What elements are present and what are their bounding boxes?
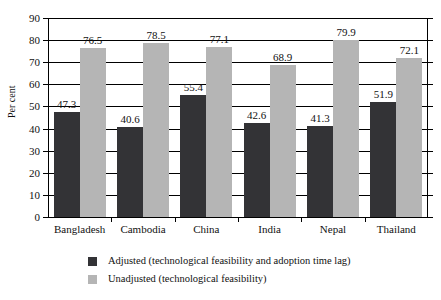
bar-adjusted[interactable]: 40.6 [117, 127, 143, 217]
bar-adjusted[interactable]: 55.4 [180, 95, 206, 217]
y-axis-tick-right [428, 40, 433, 41]
legend-item[interactable]: Adjusted (technological feasibility and … [88, 252, 351, 270]
y-axis-title: Per cent [7, 86, 17, 119]
y-axis-tick-right [428, 151, 433, 152]
bar-value-label: 78.5 [146, 30, 165, 41]
y-axis-tick-right [428, 129, 433, 130]
bar-unadjusted[interactable]: 79.9 [333, 40, 359, 217]
bar-group: 41.379.9 [307, 18, 359, 217]
bar-unadjusted[interactable]: 68.9 [270, 65, 296, 217]
x-axis-category-label: Nepal [320, 224, 346, 235]
y-axis-tick-label: 0 [35, 212, 41, 223]
bar-value-label: 47.3 [57, 99, 76, 110]
bar-value-label: 40.6 [120, 114, 139, 125]
x-axis-category-label: China [193, 224, 219, 235]
y-axis-tick-right [428, 195, 433, 196]
bar-value-label: 79.9 [336, 27, 355, 38]
bar-group: 51.972.1 [370, 18, 422, 217]
x-axis-tick [238, 218, 239, 222]
y-axis-tick-label: 40 [29, 123, 40, 134]
bar-unadjusted[interactable]: 78.5 [143, 43, 169, 217]
bar-chart: Per cent 9080706050403020100 47.376.540.… [0, 0, 441, 300]
bar-unadjusted[interactable]: 76.5 [80, 48, 106, 217]
bar-adjusted[interactable]: 42.6 [244, 123, 270, 217]
legend-label: Unadjusted (technological feasibility) [108, 274, 267, 285]
y-axis-tick-label: 60 [29, 79, 40, 90]
legend-item[interactable]: Unadjusted (technological feasibility) [88, 270, 351, 288]
x-axis-tick [365, 218, 366, 222]
bar-value-label: 51.9 [374, 89, 393, 100]
x-axis-category-label: Bangladesh [54, 224, 105, 235]
legend-label: Adjusted (technological feasibility and … [108, 256, 351, 267]
y-axis-tick-right [428, 217, 433, 218]
y-axis-tick-label: 80 [29, 35, 40, 46]
y-axis-tick-right [428, 62, 433, 63]
bar-value-label: 76.5 [83, 35, 102, 46]
y-axis-tick-right [428, 18, 433, 19]
bar-value-label: 41.3 [310, 113, 329, 124]
legend-swatch [88, 257, 97, 266]
legend-swatch [88, 275, 97, 284]
y-axis-tick-label: 70 [29, 57, 40, 68]
y-axis-tick-label: 90 [29, 13, 40, 24]
bar-value-label: 42.6 [247, 110, 266, 121]
bar-unadjusted[interactable]: 77.1 [206, 47, 232, 217]
bar-value-label: 55.4 [184, 82, 203, 93]
bars-layer: 47.376.540.678.555.477.142.668.941.379.9… [48, 18, 428, 218]
x-axis-category-label: Thailand [377, 224, 416, 235]
y-axis-tick-label: 30 [29, 145, 40, 156]
x-axis-tick [301, 218, 302, 222]
bar-group: 55.477.1 [180, 18, 232, 217]
bar-adjusted[interactable]: 41.3 [307, 126, 333, 217]
y-axis-tick-right [428, 84, 433, 85]
x-axis-category-label: India [258, 224, 281, 235]
bar-value-label: 77.1 [210, 34, 229, 45]
y-axis-tick-right [428, 106, 433, 107]
bar-adjusted[interactable]: 51.9 [370, 102, 396, 217]
x-axis-category-label: Cambodia [120, 224, 165, 235]
y-axis-tick-label: 10 [29, 189, 40, 200]
bar-value-label: 72.1 [400, 45, 419, 56]
y-axis-tick-right [428, 173, 433, 174]
chart-legend: Adjusted (technological feasibility and … [88, 252, 351, 288]
plot-area: 9080706050403020100 47.376.540.678.555.4… [48, 18, 428, 218]
x-axis-tick [111, 218, 112, 222]
bar-group: 42.668.9 [244, 18, 296, 217]
x-axis-tick [175, 218, 176, 222]
bar-value-label: 68.9 [273, 52, 292, 63]
bar-group: 40.678.5 [117, 18, 169, 217]
y-axis-tick-label: 20 [29, 167, 40, 178]
y-axis-tick-label: 50 [29, 101, 40, 112]
bar-adjusted[interactable]: 47.3 [54, 112, 80, 217]
bar-unadjusted[interactable]: 72.1 [396, 58, 422, 217]
bar-group: 47.376.5 [54, 18, 106, 217]
